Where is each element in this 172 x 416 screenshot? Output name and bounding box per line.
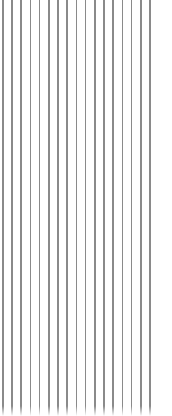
vertical-line xyxy=(112,0,114,416)
vertical-line xyxy=(76,0,78,416)
vertical-line xyxy=(57,0,59,416)
vertical-line xyxy=(20,0,22,416)
vertical-line xyxy=(140,0,142,416)
vertical-line xyxy=(103,0,105,416)
vertical-line xyxy=(30,0,32,416)
vertical-line xyxy=(122,0,124,416)
vertical-line xyxy=(131,0,133,416)
stripe-canvas xyxy=(0,0,172,416)
vertical-line xyxy=(48,0,50,416)
vertical-line xyxy=(2,0,4,416)
vertical-line xyxy=(39,0,41,416)
vertical-line xyxy=(66,0,68,416)
vertical-line xyxy=(94,0,96,416)
vertical-line xyxy=(149,0,151,416)
vertical-line xyxy=(85,0,87,416)
vertical-line-pattern xyxy=(0,0,172,416)
vertical-line xyxy=(11,0,13,416)
